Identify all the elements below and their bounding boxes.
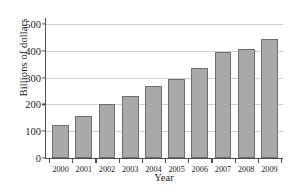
bar-chart: Billions of dollars 0100200300400500 200… bbox=[0, 0, 292, 195]
x-tick-mark bbox=[95, 159, 96, 163]
x-axis-title: Year bbox=[45, 172, 283, 183]
x-tick-mark bbox=[281, 159, 282, 163]
y-tick-label: 200 bbox=[25, 99, 41, 110]
x-tick-mark bbox=[258, 159, 259, 163]
x-tick-mark bbox=[235, 159, 236, 163]
y-tick-mark bbox=[42, 157, 46, 158]
x-tick-mark bbox=[165, 159, 166, 163]
y-tick-label: 100 bbox=[25, 126, 41, 137]
x-axis-line bbox=[45, 158, 283, 159]
bar bbox=[215, 52, 232, 158]
y-axis-line bbox=[45, 18, 46, 159]
y-tick-label: 300 bbox=[25, 72, 41, 83]
y-tick-label: 400 bbox=[25, 45, 41, 56]
bar bbox=[238, 49, 255, 158]
y-tick-label: 500 bbox=[25, 19, 41, 30]
x-tick-mark bbox=[72, 159, 73, 163]
y-tick-mark bbox=[42, 50, 46, 51]
bar bbox=[99, 104, 116, 158]
y-tick-mark bbox=[42, 23, 46, 24]
bar bbox=[168, 79, 185, 158]
y-tick-mark bbox=[42, 104, 46, 105]
x-tick-mark bbox=[49, 159, 50, 163]
bar bbox=[261, 39, 278, 158]
y-tick-label: 0 bbox=[36, 153, 41, 164]
bar bbox=[75, 116, 92, 158]
plot-area: 0100200300400500 20002001200220032004200… bbox=[45, 18, 283, 159]
bar bbox=[52, 125, 69, 158]
x-tick-mark bbox=[142, 159, 143, 163]
x-tick-mark bbox=[188, 159, 189, 163]
x-tick-mark bbox=[119, 159, 120, 163]
y-tick-mark bbox=[42, 77, 46, 78]
bar bbox=[191, 68, 208, 158]
y-tick-mark bbox=[42, 131, 46, 132]
bar bbox=[122, 96, 139, 158]
x-tick-mark bbox=[211, 159, 212, 163]
bar bbox=[145, 86, 162, 158]
gridline bbox=[46, 24, 283, 25]
